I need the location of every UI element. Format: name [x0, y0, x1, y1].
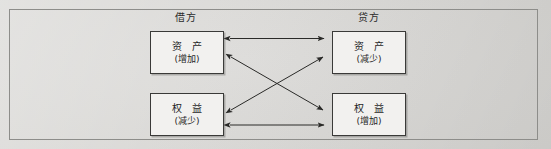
account-box-subtitle: (减少)	[356, 53, 381, 65]
diagram-frame	[9, 9, 538, 140]
column-header-credit: 贷方	[358, 12, 379, 24]
account-box-asset-debit: 资 产 (增加)	[150, 31, 224, 74]
account-box-asset-credit: 资 产 (减少)	[332, 31, 406, 74]
column-header-debit: 借方	[175, 12, 196, 24]
account-box-title: 权 益	[169, 102, 204, 115]
account-box-title: 资 产	[169, 40, 204, 53]
account-box-title: 资 产	[351, 40, 386, 53]
account-box-equity-credit: 权 益 (增加)	[332, 93, 406, 136]
account-box-subtitle: (增加)	[356, 115, 381, 127]
account-box-subtitle: (增加)	[174, 53, 199, 65]
account-box-equity-debit: 权 益 (减少)	[150, 93, 224, 136]
account-box-title: 权 益	[351, 102, 386, 115]
account-box-subtitle: (减少)	[174, 115, 199, 127]
